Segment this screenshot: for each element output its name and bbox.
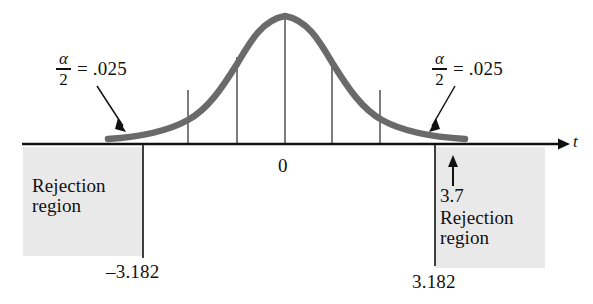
center-zero-label: 0 (278, 156, 288, 176)
left-alpha-value: = .025 (77, 58, 127, 80)
left-critical-value-label: –3.182 (106, 262, 159, 282)
t-distribution-figure: α 2 = .025 α 2 = .025 0 t Rejection regi… (0, 0, 593, 304)
left-alpha-fraction: α 2 (56, 50, 71, 88)
axis-arrowhead-icon (558, 139, 570, 150)
right-alpha-numerator: α (433, 50, 446, 68)
left-alpha-denominator: 2 (57, 70, 70, 88)
right-rejection-region-line2: region (440, 228, 514, 248)
right-alpha-denominator: 2 (433, 70, 446, 88)
right-critical-value-label: 3.182 (412, 272, 456, 292)
left-alpha-arrowhead-icon (115, 118, 126, 132)
left-rejection-region-label: Rejection region (32, 176, 106, 216)
left-alpha-numerator: α (57, 50, 70, 68)
left-rejection-region-line1: Rejection (32, 175, 106, 196)
test-statistic-label: 3.7 (440, 186, 464, 206)
right-alpha-annotation: α 2 = .025 (432, 50, 503, 88)
right-alpha-fraction: α 2 (432, 50, 447, 88)
right-alpha-value: = .025 (453, 58, 503, 80)
t-distribution-curve (108, 16, 465, 139)
right-rejection-region-label: Rejection region (440, 208, 514, 248)
right-rejection-region-line1: Rejection (440, 207, 514, 228)
left-rejection-region-line2: region (32, 196, 106, 216)
left-alpha-annotation: α 2 = .025 (56, 50, 127, 88)
ordinate-lines (188, 16, 380, 144)
axis-variable-label: t (573, 133, 578, 151)
figure-canvas (0, 0, 593, 304)
right-alpha-arrowhead-icon (429, 118, 440, 132)
